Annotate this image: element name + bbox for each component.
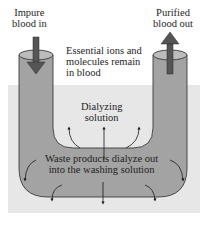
essential-ions-remain-label: Essential ions and molecules remain in b… (66, 45, 142, 78)
dialysis-diagram: Impure blood in Purified blood out Essen… (0, 0, 208, 231)
dialyzing-solution-label: Dialyzing solution (81, 101, 122, 123)
impure-blood-in-label: Impure blood in (12, 7, 47, 29)
purified-blood-out-label: Purified blood out (153, 7, 193, 29)
waste-products-label: Waste products dialyze out into the wash… (45, 153, 158, 175)
